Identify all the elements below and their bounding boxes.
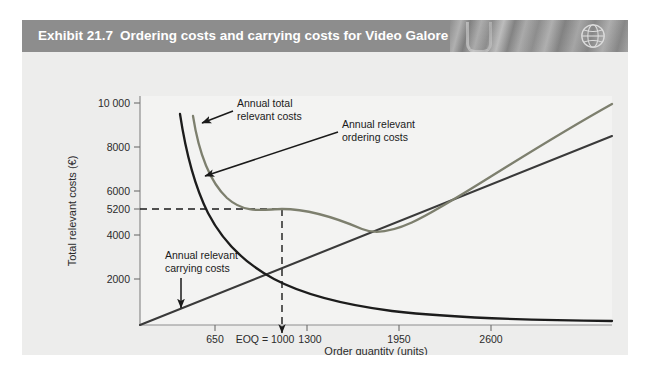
annotation-carrying-line1: Annual relevant xyxy=(165,249,238,261)
cost-curves-chart: 10 000 8000 6000 5200 4000 2000 Total re… xyxy=(22,52,628,355)
exhibit-header-title: Exhibit 21.7Ordering costs and carrying … xyxy=(38,20,448,52)
annotation-ordering-line1: Annual relevant xyxy=(342,118,415,130)
x-tick-label-2600: 2600 xyxy=(479,333,503,345)
annotation-carrying-line2: carrying costs xyxy=(165,262,230,274)
y-tick-label-5200: 5200 xyxy=(107,203,131,215)
annotation-total-line1: Annual total xyxy=(237,97,292,109)
y-tick-label-2000: 2000 xyxy=(107,273,131,285)
exhibit-panel: Exhibit 21.7Ordering costs and carrying … xyxy=(22,20,628,355)
x-tick-label-650: 650 xyxy=(206,333,224,345)
exhibit-title: Ordering costs and carrying costs for Vi… xyxy=(113,28,448,43)
annotation-ordering-line2: ordering costs xyxy=(342,131,408,143)
y-tick-label-6000: 6000 xyxy=(107,185,131,197)
exhibit-header: Exhibit 21.7Ordering costs and carrying … xyxy=(22,20,628,52)
y-tick-label-8000: 8000 xyxy=(107,141,131,153)
y-axis-title: Total relevant costs (€) xyxy=(66,156,78,267)
x-tick-label-eoq: EOQ = 1000 xyxy=(236,333,295,345)
chart-area: 10 000 8000 6000 5200 4000 2000 Total re… xyxy=(22,52,628,355)
header-photo-texture xyxy=(450,20,628,52)
x-axis-title: Order quantity (units) xyxy=(324,345,427,355)
header-vessel-shape xyxy=(466,22,492,52)
x-tick-label-1950: 1950 xyxy=(387,333,411,345)
y-tick-label-4000: 4000 xyxy=(107,229,131,241)
exhibit-number: Exhibit 21.7 xyxy=(38,28,113,43)
y-tick-label-10000: 10 000 xyxy=(98,97,130,109)
annotation-total-line2: relevant costs xyxy=(237,110,302,122)
globe-icon xyxy=(580,23,606,49)
x-tick-label-1300: 1300 xyxy=(298,333,322,345)
